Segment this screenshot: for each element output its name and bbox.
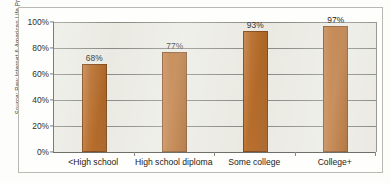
plot-area: 100%80%60%40%20%0% 68%77%93%97% bbox=[53, 22, 376, 152]
y-axis-tick-label: 80% bbox=[32, 43, 49, 53]
x-axis-tick-mark bbox=[295, 152, 296, 156]
bar-value-label: 68% bbox=[86, 53, 103, 63]
y-axis-tick-label: 0% bbox=[37, 147, 49, 157]
plot-right-edge bbox=[376, 22, 377, 152]
y-axis-tick-label: 40% bbox=[32, 95, 49, 105]
x-axis-tick-mark bbox=[214, 152, 215, 156]
y-axis-tick-mark bbox=[50, 47, 54, 48]
x-axis-tick-label: College+ bbox=[318, 157, 352, 167]
chart-figure: Source: Pew Internet & American Life Pro… bbox=[0, 0, 391, 183]
x-axis-tick-mark bbox=[134, 152, 135, 156]
y-axis-tick-label: 20% bbox=[32, 121, 49, 131]
bar: 68% bbox=[82, 64, 107, 152]
y-axis-tick-mark bbox=[50, 21, 54, 22]
y-axis-tick-mark bbox=[50, 125, 54, 126]
x-axis-tick-label: High school diploma bbox=[135, 157, 212, 167]
bar: 93% bbox=[243, 31, 268, 152]
bar-value-label: 93% bbox=[247, 20, 264, 30]
y-axis-tick-label: 100% bbox=[28, 17, 49, 27]
bar-value-label: 77% bbox=[166, 41, 183, 51]
bar: 97% bbox=[323, 26, 348, 152]
x-axis-tick-label: <High school bbox=[68, 157, 118, 167]
y-axis-tick-mark bbox=[50, 99, 54, 100]
x-axis-tick-mark bbox=[375, 152, 376, 156]
y-axis-tick-mark bbox=[50, 73, 54, 74]
bar: 77% bbox=[162, 52, 187, 152]
y-axis-tick-label: 60% bbox=[32, 69, 49, 79]
x-axis-tick-label: Some college bbox=[228, 157, 280, 167]
bar-value-label: 97% bbox=[327, 15, 344, 25]
